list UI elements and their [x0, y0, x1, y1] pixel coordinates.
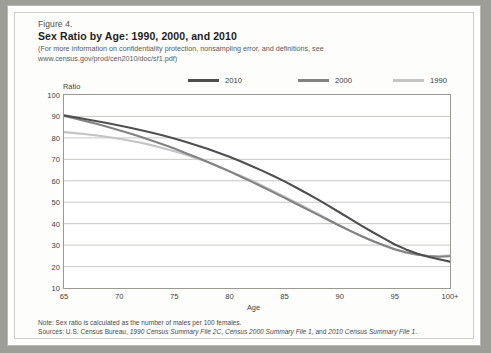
y-tick-90: 90	[34, 112, 60, 121]
plot-area	[63, 94, 451, 289]
chart-legend: 201020001990	[188, 76, 453, 90]
y-tick-100: 100	[34, 91, 60, 100]
figure-title: Sex Ratio by Age: 1990, 2000, and 2010	[38, 30, 237, 42]
source-1: 1990 Census Summary File 2C	[130, 328, 222, 335]
legend-swatch-icon-2010	[188, 79, 219, 82]
source-2: Census 2000 Summary File 1	[225, 328, 312, 335]
legend-item-1990: 1990	[393, 76, 447, 85]
y-tick-50: 50	[34, 198, 60, 207]
y-tick-80: 80	[34, 133, 60, 142]
series-line-2010	[64, 115, 450, 261]
sources-prefix: Sources: U.S. Census Bureau,	[38, 328, 130, 335]
series-line-2000	[64, 116, 450, 257]
legend-label-1990: 1990	[430, 76, 447, 85]
legend-label-2000: 2000	[335, 76, 352, 85]
plot-frame	[63, 94, 451, 289]
x-tick-85: 85	[280, 292, 288, 301]
figure-page: Figure 4. Sex Ratio by Age: 1990, 2000, …	[7, 5, 481, 346]
figure-number: Figure 4.	[38, 19, 72, 29]
y-tick-20: 20	[34, 262, 60, 271]
sources-sep-2: , and	[312, 328, 329, 335]
y-tick-60: 60	[34, 176, 60, 185]
y-tick-30: 30	[34, 241, 60, 250]
y-tick-10: 10	[34, 284, 60, 293]
series-line-1990	[64, 132, 450, 256]
figure-sources: Sources: U.S. Census Bureau, 1990 Census…	[38, 327, 468, 336]
legend-item-2000: 2000	[298, 76, 352, 85]
x-tick-65: 65	[60, 292, 68, 301]
legend-swatch-icon-2000	[298, 79, 329, 82]
x-tick-95: 95	[391, 292, 399, 301]
y-axis-ticks: 102030405060708090100	[30, 94, 60, 289]
chart-canvas	[64, 95, 450, 288]
y-tick-70: 70	[34, 155, 60, 164]
legend-item-2010: 2010	[188, 76, 242, 85]
x-axis-label: Age	[8, 303, 491, 312]
y-axis-label: Ratio	[63, 82, 80, 91]
x-tick-80: 80	[225, 292, 233, 301]
y-tick-40: 40	[34, 219, 60, 228]
x-tick-90: 90	[335, 292, 343, 301]
x-tick-100+: 100+	[441, 292, 458, 301]
figure-notes: Note: Sex ratio is calculated as the num…	[38, 318, 468, 337]
source-3: 2010 Census Summary File 1	[328, 328, 415, 335]
x-tick-70: 70	[115, 292, 123, 301]
figure-subtitle: (For more information on confidentiality…	[38, 44, 458, 63]
legend-label-2010: 2010	[225, 76, 242, 85]
x-tick-75: 75	[170, 292, 178, 301]
sources-end: .	[415, 328, 417, 335]
figure-note: Note: Sex ratio is calculated as the num…	[38, 318, 468, 327]
legend-swatch-icon-1990	[393, 79, 424, 82]
